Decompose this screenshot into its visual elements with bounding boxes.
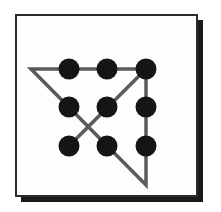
dot-r3-c2 <box>97 136 118 157</box>
dot-r2-c2 <box>97 97 118 118</box>
dot-r1-c3 <box>136 59 157 80</box>
dot-r1-c2 <box>97 59 118 80</box>
dot-r3-c3 <box>136 136 157 157</box>
dot-r2-c1 <box>59 97 80 118</box>
dot-r1-c1 <box>59 59 80 80</box>
solution-path <box>31 69 146 185</box>
dot-r2-c3 <box>136 97 157 118</box>
nine-dots-puzzle <box>0 0 221 212</box>
dot-grid <box>59 59 157 157</box>
dot-r3-c1 <box>59 136 80 157</box>
